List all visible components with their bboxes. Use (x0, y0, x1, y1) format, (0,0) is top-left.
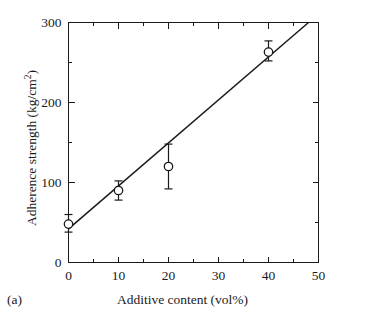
data-point-marker (114, 186, 122, 194)
y-tick-label: 300 (41, 15, 62, 30)
data-point-marker (264, 48, 272, 56)
plot-frame (69, 23, 319, 263)
y-axis-title-text: Adherence strength (kg/cm (24, 79, 39, 226)
y-tick-label: 0 (55, 255, 62, 270)
y-axis-title-suffix: ) (24, 70, 39, 75)
x-tick-label: 30 (212, 268, 226, 283)
y-axis-title-superscript: 2 (23, 74, 33, 79)
data-point-group (64, 215, 72, 233)
data-point-marker (64, 220, 72, 228)
x-tick-label: 50 (312, 268, 326, 283)
y-axis-title: Adherence strength (kg/cm2) (24, 28, 40, 268)
data-point-group (264, 41, 272, 61)
data-point-marker (164, 162, 172, 170)
x-tick-label: 0 (65, 268, 72, 283)
chart-plot-area: 010203040500100200300 (0, 0, 365, 325)
x-tick-label: 20 (162, 268, 176, 283)
x-tick-label: 40 (262, 268, 276, 283)
y-tick-label: 200 (41, 95, 62, 110)
panel-label: (a) (7, 292, 22, 308)
x-tick-label: 10 (112, 268, 126, 283)
data-point-group (164, 144, 172, 189)
y-tick-label: 100 (41, 175, 62, 190)
figure-panel: 010203040500100200300 Adherence strength… (0, 0, 365, 325)
x-axis-title: Additive content (vol%) (0, 292, 365, 308)
